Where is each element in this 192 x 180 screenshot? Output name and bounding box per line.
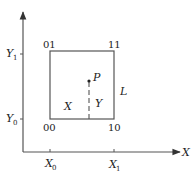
corner-label-top-left: 01 — [43, 39, 56, 50]
x-axis-label: X — [181, 146, 191, 159]
y1-tick-label: Y 1 — [6, 47, 17, 62]
corner-label-bottom-left: 00 — [43, 122, 56, 133]
corner-label-top-right: 11 — [108, 39, 121, 50]
inner-y-offset-label: Y — [95, 97, 104, 110]
x0-tick-label: X 0 — [44, 157, 56, 172]
side-length-label: L — [119, 85, 127, 98]
cell-box — [50, 51, 114, 119]
svg-text:1: 1 — [116, 165, 120, 173]
y0-tick-label: Y 0 — [6, 112, 17, 127]
corner-label-bottom-right: 10 — [108, 122, 121, 133]
coordinate-diagram: X Y 1 Y 0 X 0 X 1 01 11 00 10 L P Y X — [0, 0, 192, 180]
point-p-label: P — [92, 71, 101, 84]
x1-tick-label: X 1 — [108, 158, 120, 173]
point-p — [87, 79, 90, 82]
svg-text:1: 1 — [13, 54, 17, 62]
inner-x-offset-label: X — [63, 100, 73, 113]
svg-text:0: 0 — [52, 164, 56, 172]
svg-text:0: 0 — [13, 119, 17, 127]
